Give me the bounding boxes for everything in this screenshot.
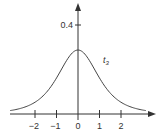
- chart-canvas: 0.4 −2 −1 0 1 2 t3: [0, 0, 168, 134]
- x-tick-label-0: 0: [75, 121, 80, 131]
- x-tick-label--1: −1: [50, 121, 60, 131]
- x-tick-label-2: 2: [118, 121, 123, 131]
- x-tick-label--2: −2: [29, 121, 39, 131]
- x-axis-arrow-icon: [148, 111, 156, 117]
- curve-label-t3: t3: [103, 55, 110, 66]
- y-axis-arrow-icon: [75, 3, 81, 11]
- x-tick-label-1: 1: [97, 121, 102, 131]
- y-tick-label-0.4: 0.4: [60, 20, 73, 30]
